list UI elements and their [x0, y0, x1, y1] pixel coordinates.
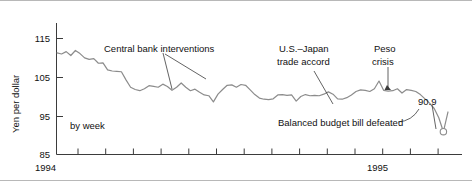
annotation-central-bank-interventions: Central bank interventions	[104, 43, 214, 54]
annotation-balanced-budget-bill: Balanced budget bill defeated	[278, 117, 403, 128]
x-tick-label-1995: 1995	[367, 162, 388, 173]
y-tick-label-85: 85	[26, 149, 50, 160]
annotation-peso-crisis-line1: Peso	[374, 43, 396, 54]
y-tick-label-115: 115	[26, 33, 50, 44]
annotation-us-japan-trade-accord-line2: trade accord	[277, 56, 330, 67]
x-tick-label-1994: 1994	[35, 162, 56, 173]
low-point-value-label: 90.9	[418, 96, 437, 107]
annotation-peso-crisis-line2: crisis	[372, 56, 394, 67]
y-tick-marks	[57, 39, 64, 117]
leader-central-bank-a	[163, 53, 172, 89]
low-point-marker	[440, 128, 446, 134]
leader-central-bank-b	[165, 54, 206, 79]
x-tick-marks	[78, 149, 438, 155]
leader-trade-accord	[314, 71, 333, 104]
by-week-note: by week	[70, 120, 105, 131]
annotation-us-japan-trade-accord-line1: U.S.–Japan	[279, 43, 329, 54]
chart-figure: Yen per dollar 115 105 95 85 1994 1995 b…	[0, 0, 472, 181]
chart-canvas	[0, 1, 472, 181]
y-tick-label-105: 105	[26, 72, 50, 83]
y-tick-label-95: 95	[26, 111, 50, 122]
y-axis-title: Yen per dollar	[10, 75, 21, 133]
